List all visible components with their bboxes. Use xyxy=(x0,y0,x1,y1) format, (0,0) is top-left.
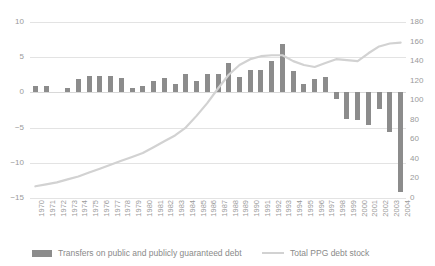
y-tick-left--5: −5 xyxy=(0,124,24,132)
x-tick-1992: 1992 xyxy=(275,200,283,217)
bar-1978 xyxy=(119,78,124,92)
bar-1993 xyxy=(280,44,285,93)
bar-2000 xyxy=(355,92,360,119)
bar-1989 xyxy=(237,77,242,92)
x-tick-1998: 1998 xyxy=(339,200,347,217)
x-tick-1977: 1977 xyxy=(114,200,122,217)
bar-1994 xyxy=(291,71,296,92)
x-tick-1986: 1986 xyxy=(210,200,218,217)
bar-1987 xyxy=(216,74,221,92)
bar-1984 xyxy=(183,74,188,92)
x-tick-2002: 2002 xyxy=(382,200,390,217)
x-tick-1991: 1991 xyxy=(264,200,272,217)
y-tick-left-10: 10 xyxy=(0,18,24,26)
x-tick-1987: 1987 xyxy=(221,200,229,217)
y-tick-left-0: 0 xyxy=(0,88,24,96)
x-tick-1995: 1995 xyxy=(307,200,315,217)
bar-1983 xyxy=(173,84,178,92)
y-tick-right-180: 180 xyxy=(410,18,434,26)
bar-1970 xyxy=(33,86,38,92)
x-tick-1973: 1973 xyxy=(71,200,79,217)
bar-1979 xyxy=(130,88,135,92)
bar-2004 xyxy=(398,92,403,191)
legend-label-debt-stock: Total PPG debt stock xyxy=(290,248,369,258)
gridline--15 xyxy=(30,198,406,199)
x-tick-1993: 1993 xyxy=(285,200,293,217)
x-tick-1990: 1990 xyxy=(253,200,261,217)
x-tick-1989: 1989 xyxy=(242,200,250,217)
bar-1995 xyxy=(301,84,306,92)
x-tick-1980: 1980 xyxy=(146,200,154,217)
y-tick-right-120: 120 xyxy=(410,77,434,85)
x-tick-1997: 1997 xyxy=(328,200,336,217)
bar-1997 xyxy=(323,77,328,92)
bar-1973 xyxy=(65,88,70,92)
x-tick-1996: 1996 xyxy=(318,200,326,217)
y-tick-right-160: 160 xyxy=(410,38,434,46)
y-tick-left--15: −15 xyxy=(0,194,24,202)
bar-1986 xyxy=(205,74,210,92)
x-tick-1972: 1972 xyxy=(60,200,68,217)
bar-1990 xyxy=(248,70,253,93)
x-tick-1974: 1974 xyxy=(81,200,89,217)
legend-line-swatch-icon xyxy=(262,252,284,254)
x-tick-1999: 1999 xyxy=(350,200,358,217)
x-tick-2000: 2000 xyxy=(361,200,369,217)
x-tick-1982: 1982 xyxy=(167,200,175,217)
x-tick-2003: 2003 xyxy=(393,200,401,217)
bar-1977 xyxy=(108,76,113,92)
y-tick-right-40: 40 xyxy=(410,155,434,163)
y-tick-right-20: 20 xyxy=(410,174,434,182)
bar-2002 xyxy=(377,92,382,109)
y-tick-left--10: −10 xyxy=(0,159,24,167)
x-tick-1975: 1975 xyxy=(92,200,100,217)
y-tick-right-80: 80 xyxy=(410,116,434,124)
y-tick-left-5: 5 xyxy=(0,53,24,61)
bar-1992 xyxy=(269,61,274,92)
x-tick-1985: 1985 xyxy=(200,200,208,217)
plot-area xyxy=(30,22,406,198)
x-tick-1970: 1970 xyxy=(38,200,46,217)
x-axis-ticks: 1970197119721973197419751976197719781979… xyxy=(30,200,406,238)
x-tick-1976: 1976 xyxy=(103,200,111,217)
bar-1991 xyxy=(258,70,263,93)
x-tick-1988: 1988 xyxy=(232,200,240,217)
bar-1981 xyxy=(151,81,156,92)
bar-1975 xyxy=(87,76,92,92)
x-tick-2001: 2001 xyxy=(371,200,379,217)
bar-2003 xyxy=(387,92,392,131)
x-tick-1994: 1994 xyxy=(296,200,304,217)
x-tick-1979: 1979 xyxy=(135,200,143,217)
chart-container: 1050−5−10−15 180160140120100806040200 19… xyxy=(0,0,435,266)
legend-bar-swatch-icon xyxy=(32,250,52,257)
bar-1976 xyxy=(97,76,102,92)
bar-1974 xyxy=(76,79,81,92)
bar-1988 xyxy=(226,63,231,93)
y-tick-right-0: 0 xyxy=(410,194,434,202)
x-tick-1981: 1981 xyxy=(157,200,165,217)
legend-item-transfers: Transfers on public and publicly guarant… xyxy=(32,248,242,258)
bar-1996 xyxy=(312,79,317,92)
bar-1980 xyxy=(140,86,145,92)
x-tick-1983: 1983 xyxy=(178,200,186,217)
legend-label-transfers: Transfers on public and publicly guarant… xyxy=(58,248,242,258)
x-tick-1971: 1971 xyxy=(49,200,57,217)
x-tick-1978: 1978 xyxy=(124,200,132,217)
bar-1998 xyxy=(334,92,339,98)
y-tick-right-140: 140 xyxy=(410,57,434,65)
bar-1999 xyxy=(344,92,349,119)
y-tick-right-100: 100 xyxy=(410,96,434,104)
bar-1971 xyxy=(44,86,49,92)
y-tick-right-60: 60 xyxy=(410,135,434,143)
bar-2001 xyxy=(366,92,371,124)
bar-1982 xyxy=(162,78,167,92)
legend-item-debt-stock: Total PPG debt stock xyxy=(262,248,369,258)
x-tick-1984: 1984 xyxy=(189,200,197,217)
bar-series-transfers xyxy=(30,22,406,198)
bar-1985 xyxy=(194,81,199,92)
chart-legend: Transfers on public and publicly guarant… xyxy=(0,244,435,264)
x-tick-2004: 2004 xyxy=(404,200,412,217)
